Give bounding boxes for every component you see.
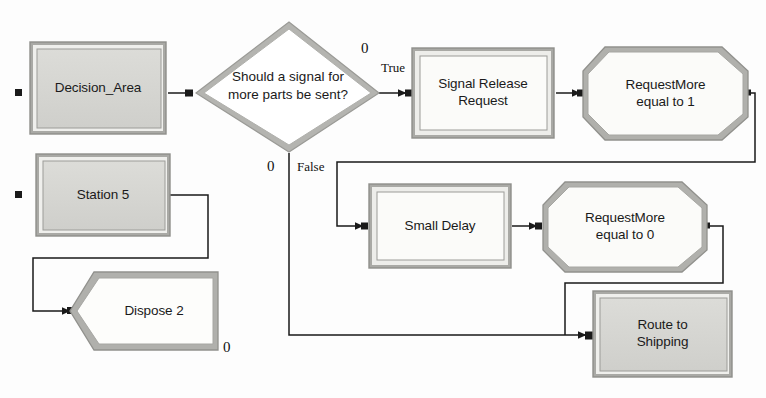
label-request-more-1: RequestMore equal to 1 [583,47,748,140]
label-small-delay: Small Delay [369,184,511,268]
edge-label-true: True [381,60,405,76]
label-decision-diamond: Should a signal for more parts be sent? [197,68,379,103]
counter-true-branch: 0 [361,40,369,57]
counter-dispose-2: 0 [223,339,231,356]
edge-label-false: False [297,159,324,175]
label-request-more-0: RequestMore equal to 0 [543,182,707,272]
label-route-to-shipping: Route to Shipping [593,291,732,377]
flowchart-canvas: Decision_Area Should a signal for more p… [0,0,766,398]
label-decision-area: Decision_Area [30,42,166,134]
counter-false-branch: 0 [267,158,275,175]
label-signal-release-request: Signal Release Request [412,48,554,138]
label-station-5: Station 5 [36,154,170,236]
label-dispose-2: Dispose 2 [90,272,218,350]
